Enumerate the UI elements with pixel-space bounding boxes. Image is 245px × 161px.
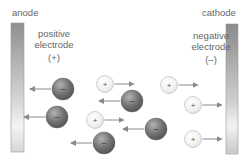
cathode-sign: (–) (205, 54, 217, 65)
plus-sign: + (103, 80, 108, 89)
cathode-desc-line2: electrode (191, 41, 230, 52)
negative-ion: – (99, 90, 143, 112)
ions-layer: –––––+++++ (24, 76, 222, 155)
minus-sign: – (129, 96, 134, 106)
positive-ion: + (87, 112, 124, 129)
cathode-desc-line1: negative (193, 30, 229, 41)
plus-sign: + (167, 81, 172, 90)
anode-desc-line1: positive (38, 28, 70, 39)
cathode-title: cathode (202, 7, 236, 18)
plus-sign: + (93, 116, 98, 125)
electrolysis-diagram: –––––+++++ anode positive electrode (+) … (0, 0, 245, 161)
plus-sign: + (191, 101, 196, 110)
negative-ion: – (24, 106, 68, 128)
positive-ion: + (97, 76, 134, 93)
anode-sign: (+) (48, 52, 60, 63)
anode-title: anode (12, 7, 38, 18)
positive-ion: + (185, 97, 222, 114)
minus-sign: – (60, 84, 65, 94)
anode-electrode (11, 23, 24, 152)
minus-sign: – (54, 112, 59, 122)
negative-ion: – (71, 132, 115, 154)
positive-ion: + (185, 131, 222, 148)
anode-desc-line2: electrode (34, 39, 73, 50)
minus-sign: – (153, 124, 158, 134)
negative-ion: – (123, 118, 167, 140)
positive-ion: + (161, 77, 198, 94)
minus-sign: – (101, 138, 106, 148)
negative-ion: – (30, 78, 74, 100)
plus-sign: + (191, 135, 196, 144)
diagram-graphic: –––––+++++ (0, 0, 245, 161)
